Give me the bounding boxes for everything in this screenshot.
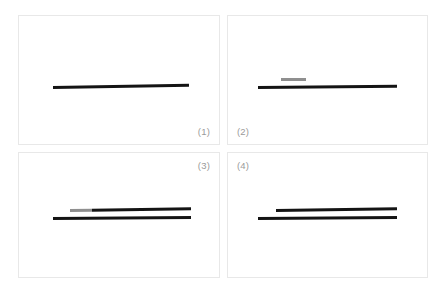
panel-1: (1) xyxy=(18,15,220,145)
panel-4-label: (4) xyxy=(237,161,249,171)
panel-2-line-primary-segment-black xyxy=(258,85,397,89)
panel-2-label: (2) xyxy=(237,127,249,137)
panel-3-line-lower xyxy=(53,216,191,220)
panel-figure: (1) (2) (3) (4) xyxy=(0,0,444,293)
panel-3-line-upper-segment-black xyxy=(92,207,191,211)
panel-1-line-primary-segment-black xyxy=(53,84,189,89)
panel-4: (4) xyxy=(227,152,428,278)
panel-4-line-lower-segment-black xyxy=(258,216,397,220)
panel-3-line-upper xyxy=(70,207,191,212)
panel-1-label: (1) xyxy=(198,127,210,137)
panel-2-line-upper-fragment xyxy=(281,78,306,81)
panel-2-line-upper-fragment-segment-gray xyxy=(281,78,306,81)
panel-4-line-upper-segment-black xyxy=(276,207,397,212)
panel-3: (3) xyxy=(18,152,220,278)
panel-3-label: (3) xyxy=(198,161,210,171)
panel-2: (2) xyxy=(227,15,428,145)
panel-3-line-upper-segment-gray xyxy=(70,209,92,212)
panel-2-line-primary xyxy=(258,85,397,89)
panel-4-line-upper xyxy=(276,207,397,212)
panel-1-line-primary xyxy=(53,84,189,89)
panel-4-line-lower xyxy=(258,216,397,220)
panel-3-line-lower-segment-black xyxy=(53,216,191,220)
